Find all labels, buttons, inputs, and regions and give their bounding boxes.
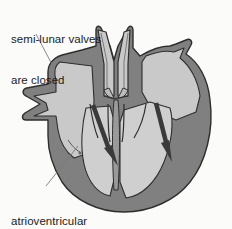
semi-lunar-valves-label: semi-lunar valves are closed [11,6,101,114]
atrioventricular-label-line-1: atrioventricular [11,215,93,229]
semi-lunar-label-line-1: semi-lunar valves [11,33,101,47]
heart-diagram-figure: semi-lunar valves are closed atrioventri… [0,0,232,229]
semi-lunar-label-line-2: are closed [11,74,101,88]
interventricular-septum [113,100,120,190]
atrioventricular-valves-label: atrioventricular valves are open [11,188,93,229]
